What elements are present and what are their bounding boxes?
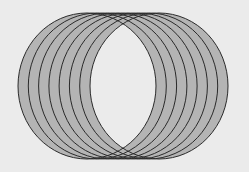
diagram-canvas: [0, 0, 249, 172]
overlapping-circles-figure: [0, 0, 249, 172]
circle-fills: [18, 13, 228, 159]
